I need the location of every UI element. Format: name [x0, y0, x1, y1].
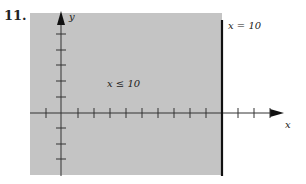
inequality-graph: y x x ≤ 10 x = 10	[0, 0, 306, 184]
y-axis-label: y	[68, 11, 75, 22]
boundary-label: x = 10	[228, 20, 262, 31]
shaded-region	[30, 13, 222, 175]
x-axis-arrow-icon	[270, 109, 284, 117]
region-label: x ≤ 10	[107, 78, 141, 89]
x-axis-label: x	[285, 119, 291, 130]
